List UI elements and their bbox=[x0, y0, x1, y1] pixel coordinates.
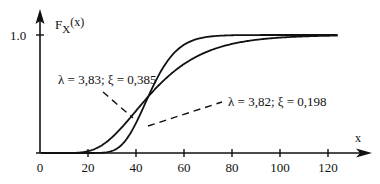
annotation-1: λ = 3,83; ξ = 0,385 bbox=[58, 72, 157, 87]
x-tick-label: 60 bbox=[178, 160, 191, 175]
x-tick-label: 20 bbox=[82, 160, 95, 175]
x-tick-label: 100 bbox=[270, 160, 290, 175]
y-tick-label-1: 1.0 bbox=[10, 28, 26, 43]
x-tick-label: 40 bbox=[130, 160, 143, 175]
lognormal-cdf-chart: 1.0 FX(x) x 020406080100120 λ = 3,83; ξ … bbox=[0, 0, 380, 184]
x-axis-label: x bbox=[355, 131, 361, 145]
annotation-1-leader bbox=[103, 92, 133, 118]
x-tick-label: 0 bbox=[37, 160, 44, 175]
annotation-2: λ = 3,82; ξ = 0,198 bbox=[228, 94, 327, 109]
x-tick-label: 120 bbox=[318, 160, 338, 175]
annotation-2-leader bbox=[148, 102, 222, 126]
y-axis-label: FX(x) bbox=[55, 15, 84, 35]
x-tick-label: 80 bbox=[226, 160, 239, 175]
